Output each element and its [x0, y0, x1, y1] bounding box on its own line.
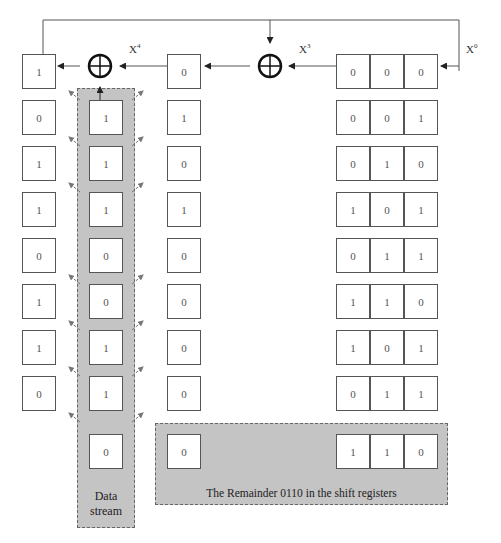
register-middle-initial: 0	[167, 54, 201, 89]
shift-cell: 0	[404, 146, 438, 181]
shift-cell: 0	[336, 100, 370, 135]
data-bit: 1	[89, 100, 123, 135]
shift-cell: 1	[404, 238, 438, 273]
shift-cell: 1	[370, 376, 404, 411]
data-stream-caption: Data stream	[77, 489, 135, 519]
register-left: 1	[22, 284, 56, 319]
data-bit: 1	[89, 146, 123, 181]
label-x3: X3	[299, 42, 310, 55]
register-middle: 1	[167, 192, 201, 227]
shift-cell: 1	[336, 192, 370, 227]
data-bit: 1	[89, 330, 123, 365]
shift-cell: 0	[404, 54, 438, 89]
register-left: 0	[22, 100, 56, 135]
data-bit: 1	[89, 376, 123, 411]
data-bit: 0	[89, 284, 123, 319]
shift-cell: 0	[336, 146, 370, 181]
shift-cell: 0	[370, 100, 404, 135]
data-bit: 1	[89, 192, 123, 227]
label-x0: X0	[466, 42, 477, 55]
shift-cell: 0	[370, 330, 404, 365]
shift-cell: 1	[370, 284, 404, 319]
register-middle: 1	[167, 100, 201, 135]
shift-cell: 1	[370, 146, 404, 181]
register-middle: 0	[167, 146, 201, 181]
register-left: 1	[22, 146, 56, 181]
shift-cell-final: 1	[370, 434, 404, 469]
xor-gate-1	[89, 55, 111, 77]
shift-cell: 1	[336, 284, 370, 319]
register-middle: 0	[167, 238, 201, 273]
register-middle: 0	[167, 330, 201, 365]
data-stream-label-line2: stream	[77, 504, 135, 519]
register-left: 0	[22, 238, 56, 273]
remainder-caption: The Remainder 0110 in the shift register…	[155, 486, 448, 501]
label-x4: X4	[129, 42, 140, 55]
shift-cell: 1	[404, 100, 438, 135]
data-stream-label-line1: Data	[77, 489, 135, 504]
shift-cell: 1	[336, 330, 370, 365]
shift-cell: 1	[370, 238, 404, 273]
shift-cell: 1	[404, 330, 438, 365]
shift-cell: 1	[404, 192, 438, 227]
register-middle: 0	[167, 376, 201, 411]
shift-cell: 0	[336, 376, 370, 411]
shift-cell: 0	[404, 284, 438, 319]
register-left: 1	[22, 330, 56, 365]
shift-cell: 0	[370, 54, 404, 89]
data-bit: 0	[89, 434, 123, 469]
xor-gate-2	[259, 55, 281, 77]
shift-cell: 1	[404, 376, 438, 411]
register-middle: 0	[167, 284, 201, 319]
register-middle-final: 0	[167, 434, 201, 469]
shift-cell-final: 1	[336, 434, 370, 469]
shift-cell-final: 0	[404, 434, 438, 469]
shift-cell: 0	[370, 192, 404, 227]
register-left-initial: 1	[22, 54, 56, 89]
register-left: 1	[22, 192, 56, 227]
shift-cell: 0	[336, 238, 370, 273]
register-left: 0	[22, 376, 56, 411]
data-bit: 0	[89, 238, 123, 273]
shift-cell: 0	[336, 54, 370, 89]
